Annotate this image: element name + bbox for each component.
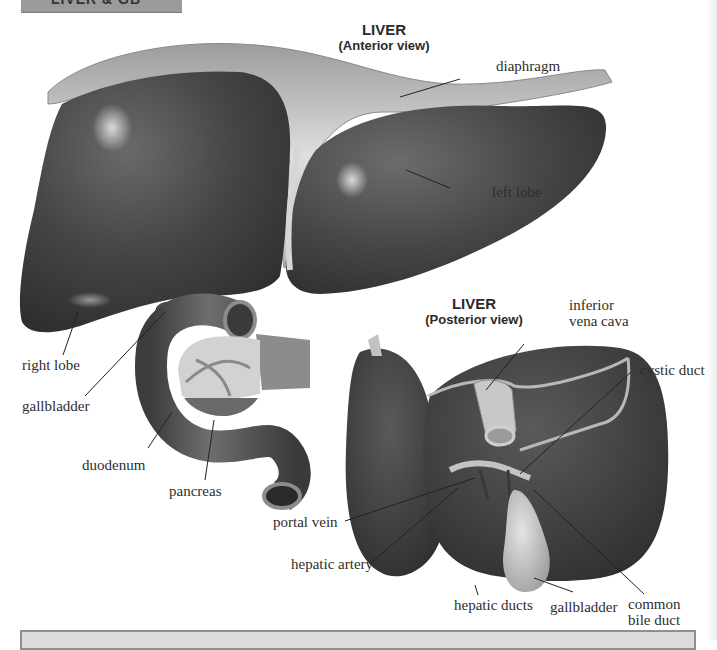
label-right-lobe: right lobe — [22, 357, 80, 373]
label-hepatic-ducts: hepatic ducts — [454, 597, 533, 613]
label-duodenum: duodenum — [82, 457, 145, 473]
label-inferior-vena-cava: inferior vena cava — [569, 297, 629, 329]
posterior-title-sub: (Posterior view) — [412, 312, 536, 328]
label-common-bile-duct: common bile duct — [628, 596, 681, 628]
anterior-view-title: LIVER (Anterior view) — [324, 22, 444, 54]
left-lobe-shape — [286, 105, 606, 294]
right-lobe-shape — [20, 71, 290, 332]
label-cystic-duct: cystic duct — [640, 362, 705, 378]
label-cbd-line1: common — [628, 596, 681, 612]
pancreas-shape — [256, 334, 310, 390]
label-ivc-line1: inferior — [569, 297, 614, 313]
label-cbd-line2: bile duct — [628, 612, 680, 628]
anterior-title-main: LIVER — [324, 22, 444, 38]
posterior-title-main: LIVER — [412, 296, 536, 312]
caption-box — [20, 630, 696, 650]
label-gallbladder-anterior: gallbladder — [22, 398, 89, 414]
label-diaphragm: diaphragm — [496, 58, 560, 74]
posterior-view-title: LIVER (Posterior view) — [412, 296, 536, 328]
label-pancreas: pancreas — [169, 483, 221, 499]
anterior-title-sub: (Anterior view) — [324, 38, 444, 54]
label-portal-vein: portal vein — [273, 514, 338, 530]
label-left-lobe: left lobe — [492, 184, 542, 200]
label-hepatic-artery: hepatic artery — [291, 556, 373, 572]
label-gallbladder-posterior: gallbladder — [550, 599, 617, 615]
label-ivc-line2: vena cava — [569, 313, 629, 329]
page-edge-shadow — [707, 0, 717, 640]
